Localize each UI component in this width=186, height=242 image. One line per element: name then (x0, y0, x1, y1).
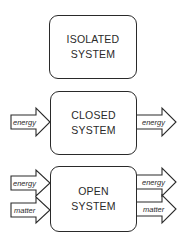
flow-arrows: energy energy energy matter energy matte… (0, 0, 186, 242)
open-matter-out-label: matter (143, 205, 165, 214)
closed-energy-in-label: energy (13, 118, 37, 127)
open-energy-in-label: energy (13, 179, 37, 188)
closed-energy-out-label: energy (142, 118, 166, 127)
open-energy-out-label: energy (142, 178, 166, 187)
open-matter-in-label: matter (14, 206, 36, 215)
